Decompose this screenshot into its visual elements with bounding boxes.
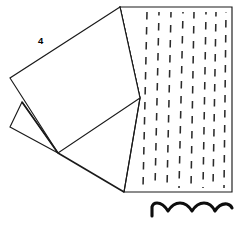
folded-sheet-diagram: 4 [0, 0, 245, 227]
scalloped-wave-detail [152, 203, 232, 216]
figure-container: 4 [0, 0, 245, 227]
reference-numeral-4: 4 [38, 35, 44, 46]
crease-line-lower [58, 153, 124, 192]
